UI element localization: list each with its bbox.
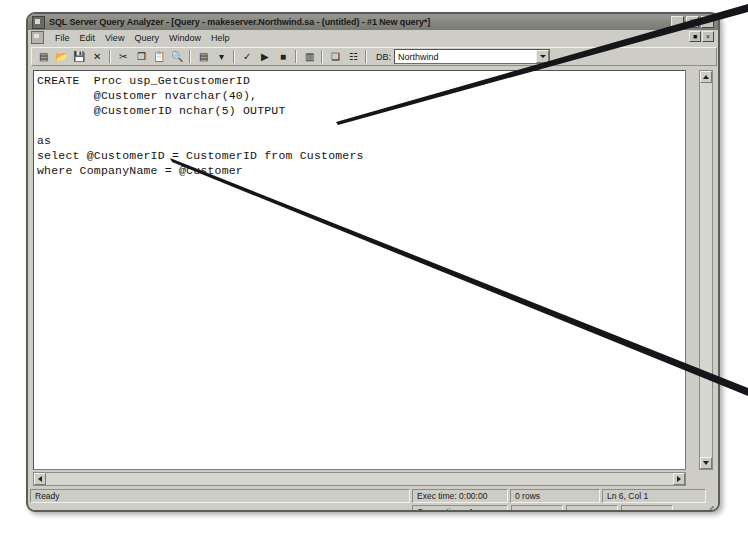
menu-item-edit[interactable]: Edit: [75, 33, 101, 43]
stop-square-icon: ■: [275, 49, 291, 64]
menu-item-window[interactable]: Window: [164, 33, 206, 43]
close-button[interactable]: ×: [701, 16, 714, 28]
status-rows: 0 rows: [510, 489, 600, 503]
open-file-button[interactable]: 📂: [53, 49, 69, 64]
mdi-restore-button[interactable]: ■: [689, 31, 701, 42]
scissors-icon: ✂: [115, 49, 131, 64]
parse-query-button[interactable]: ✓: [239, 49, 255, 64]
db-label: DB:: [376, 52, 391, 62]
binoculars-icon: 🔍: [169, 49, 185, 64]
toolbar-separator-6: [365, 50, 367, 63]
database-select-arrow[interactable]: [536, 50, 549, 63]
status-empty-2: [566, 505, 618, 512]
save-query-button[interactable]: 💾: [71, 49, 87, 64]
find-button[interactable]: 🔍: [169, 49, 185, 64]
maximize-button[interactable]: □: [686, 16, 699, 28]
triangle-down-icon: [703, 461, 709, 465]
editor-vertical-scrollbar[interactable]: [699, 70, 713, 470]
status-bar-secondary: Connections: 1: [30, 504, 718, 512]
open-folder-icon: 📂: [53, 49, 69, 64]
status-empty-3: [621, 505, 673, 512]
copy-button[interactable]: ❐: [133, 49, 149, 64]
checkmark-icon: ✓: [239, 49, 255, 64]
menu-item-file[interactable]: File: [50, 33, 75, 43]
editor-horizontal-scrollbar[interactable]: [33, 472, 686, 486]
status-empty-1: [511, 505, 563, 512]
database-select-value: Northwind: [395, 52, 536, 62]
object-browser-button[interactable]: ❑: [327, 49, 343, 64]
toolbar-separator-5: [321, 50, 323, 63]
status-exec-time: Exec time: 0:00:00: [412, 489, 508, 503]
toolbar-separator-4: [295, 50, 297, 63]
menu-item-help[interactable]: Help: [206, 33, 235, 43]
status-connections: Connections: 1: [412, 505, 508, 512]
floppy-disk-icon: 💾: [71, 49, 87, 64]
menu-item-view[interactable]: View: [100, 33, 129, 43]
x-mark-icon: ✕: [89, 49, 105, 64]
mdi-window-controls: ■ ×: [689, 31, 714, 42]
object-browser-icon: ❑: [327, 49, 343, 64]
toolbar-separator-3: [233, 50, 235, 63]
new-query-icon: ▤: [35, 49, 51, 64]
title-bar[interactable]: SQL Server Query Analyzer - [Query - mak…: [28, 14, 718, 30]
paste-button[interactable]: 📋: [151, 49, 167, 64]
clear-window-button[interactable]: ✕: [89, 49, 105, 64]
status-bar: Ready Exec time: 0:00:00 0 rows Ln 6, Co…: [30, 488, 718, 504]
chevron-down-icon: ▾: [213, 49, 229, 64]
cut-button[interactable]: ✂: [115, 49, 131, 64]
results-pane-icon: ☷: [345, 49, 361, 64]
sql-query-analyzer-icon[interactable]: [32, 16, 45, 29]
scroll-up-button[interactable]: [700, 71, 712, 83]
execution-plan-icon: ▥: [301, 49, 317, 64]
query-editor-text[interactable]: CREATE Proc usp_GetCustomerID @Customer …: [37, 73, 364, 178]
toolbar-separator-1: [109, 50, 111, 63]
scroll-right-button[interactable]: [673, 473, 685, 485]
scroll-left-button[interactable]: [34, 473, 46, 485]
menu-bar: File Edit View Query Window Help ■ ×: [28, 30, 718, 45]
window-controls: _ □ ×: [671, 16, 714, 28]
clipboard-icon: 📋: [151, 49, 167, 64]
triangle-left-icon: [38, 476, 42, 482]
display-estimated-plan-button[interactable]: ▥: [301, 49, 317, 64]
execute-mode-dropdown[interactable]: ▾: [213, 49, 229, 64]
minimize-button[interactable]: _: [671, 16, 684, 28]
execute-mode-button[interactable]: ▤: [195, 49, 211, 64]
grid-results-icon: ▤: [195, 49, 211, 64]
application-window: SQL Server Query Analyzer - [Query - mak…: [26, 12, 720, 512]
triangle-up-icon: [703, 75, 709, 79]
scroll-down-button[interactable]: [700, 457, 712, 469]
menu-item-query[interactable]: Query: [129, 33, 164, 43]
status-cursor-position: Ln 6, Col 1: [602, 489, 706, 503]
toolbar-separator-2: [189, 50, 191, 63]
copy-icon: ❐: [133, 49, 149, 64]
triangle-right-icon: [677, 476, 681, 482]
new-query-button[interactable]: ▤: [35, 49, 51, 64]
show-results-pane-button[interactable]: ☷: [345, 49, 361, 64]
mdi-close-button[interactable]: ×: [702, 31, 714, 42]
database-select[interactable]: Northwind: [394, 49, 550, 64]
status-ready: Ready: [30, 489, 410, 503]
play-triangle-icon: ▶: [257, 49, 273, 64]
resize-grip-icon[interactable]: [702, 506, 714, 512]
chevron-down-icon: [540, 55, 546, 58]
execute-query-button[interactable]: ▶: [257, 49, 273, 64]
query-editor[interactable]: CREATE Proc usp_GetCustomerID @Customer …: [33, 70, 686, 470]
stop-query-button[interactable]: ■: [275, 49, 291, 64]
window-title: SQL Server Query Analyzer - [Query - mak…: [49, 17, 671, 27]
screenshot-root: SQL Server Query Analyzer - [Query - mak…: [0, 0, 748, 537]
toolbar: ▤ 📂 💾 ✕ ✂ ❐ 📋 🔍: [31, 47, 717, 66]
mdi-document-icon[interactable]: [31, 31, 44, 44]
